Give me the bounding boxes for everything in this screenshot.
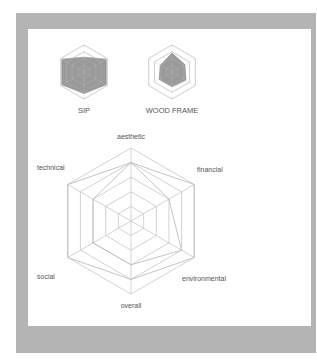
comparison-radar-chart: [68, 148, 194, 294]
radar-charts: SIP WOOD FRAME aesthetic financial envir…: [0, 0, 317, 364]
sip-label: SIP: [78, 106, 90, 115]
axis-label-aesthetic: aesthetic: [117, 133, 146, 140]
axis-label-environmental: environmental: [182, 275, 226, 282]
sip-radar-chart: [61, 45, 108, 99]
wood-frame-radar-chart: [149, 45, 196, 99]
axis-label-social: social: [37, 273, 55, 280]
axis-label-technical: technical: [37, 164, 65, 171]
axis-label-financial: financial: [197, 166, 223, 173]
axis-label-overall: overall: [121, 302, 142, 309]
wood-frame-label: WOOD FRAME: [146, 106, 199, 115]
